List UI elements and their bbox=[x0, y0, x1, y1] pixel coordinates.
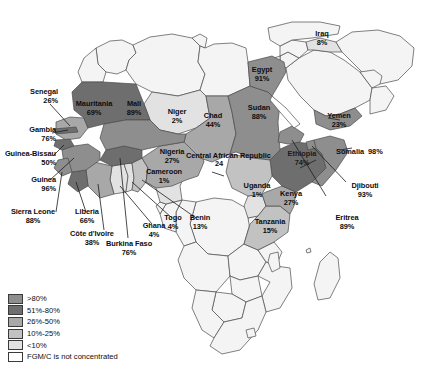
label-uganda-country: Uganda bbox=[244, 181, 271, 190]
label-eritrea: Eritrea 89% bbox=[328, 214, 366, 231]
label-yemen-country: Yemen bbox=[327, 111, 351, 120]
label-somalia-value: 98% bbox=[368, 147, 383, 156]
label-burkina-faso: Burkina Faso 76% bbox=[96, 240, 162, 257]
label-senegal: Senegal 26% bbox=[2, 88, 58, 105]
label-djibouti-country: Djibouti bbox=[351, 181, 378, 190]
label-cameroon: Cameroon 1% bbox=[140, 168, 188, 185]
label-djibouti: Djibouti 93% bbox=[344, 182, 386, 199]
label-burkina-faso-country: Burkina Faso bbox=[106, 239, 152, 248]
label-guinea: Guinea 96% bbox=[2, 176, 56, 193]
label-ghana-value: 4% bbox=[134, 231, 174, 240]
label-benin: Benin 13% bbox=[184, 214, 216, 231]
label-nigeria-country: Nigeria bbox=[160, 147, 185, 156]
label-mali: Mali 89% bbox=[118, 100, 150, 117]
legend-item-over-80: >80% bbox=[8, 293, 160, 305]
label-burkina-faso-value: 76% bbox=[96, 249, 162, 258]
label-ethiopia-country: Ethiopia bbox=[288, 149, 317, 158]
label-guinea-bissau: Guinea-Bissau 50% bbox=[0, 150, 56, 167]
label-mauritania-country: Mauritania bbox=[76, 99, 112, 108]
label-eritrea-value: 89% bbox=[328, 223, 366, 232]
legend-swatch-51-80 bbox=[8, 305, 23, 315]
label-cote-divoire-country: Côte d'Ivoire bbox=[70, 229, 114, 238]
label-sierra-leone-value: 88% bbox=[2, 217, 64, 226]
legend-label-under-10: <10% bbox=[27, 341, 47, 350]
country-lesotho bbox=[246, 328, 256, 338]
label-ethiopia: Ethiopia 74% bbox=[282, 150, 322, 167]
legend-swatch-10-25 bbox=[8, 329, 23, 339]
country-comoros bbox=[306, 248, 311, 253]
label-car: Central African Republic 24 bbox=[186, 152, 252, 168]
label-egypt-country: Egypt bbox=[252, 65, 272, 74]
label-benin-country: Benin bbox=[190, 213, 210, 222]
label-senegal-value: 26% bbox=[2, 97, 58, 106]
legend-swatch-not-concentrated bbox=[8, 352, 23, 362]
legend-item-10-25: 10%-25% bbox=[8, 328, 160, 340]
legend-label-not-concentrated: FGM/C is not concentrated bbox=[27, 352, 118, 361]
legend-label-26-50: 26%-50% bbox=[27, 317, 60, 326]
label-egypt-value: 91% bbox=[244, 75, 280, 84]
label-benin-value: 13% bbox=[184, 223, 216, 232]
label-iraq-value: 8% bbox=[308, 39, 336, 48]
label-guinea-value: 96% bbox=[2, 185, 56, 194]
label-liberia-value: 66% bbox=[64, 217, 110, 226]
label-togo-country: Togo bbox=[164, 213, 181, 222]
legend-item-26-50: 26%-50% bbox=[8, 316, 160, 328]
label-somalia: Somalia 98% bbox=[336, 148, 412, 157]
label-gambia-country: Gambia bbox=[29, 125, 56, 134]
legend-swatch-26-50 bbox=[8, 317, 23, 327]
label-guinea-bissau-value: 50% bbox=[0, 159, 56, 168]
label-tanzania: Tanzania 15% bbox=[246, 218, 294, 235]
label-car-country: Central African Republic bbox=[186, 151, 271, 160]
fgm-prevalence-map-figure: Senegal 26% Gambia 76% Guinea-Bissau 50%… bbox=[0, 0, 421, 373]
label-tanzania-value: 15% bbox=[246, 227, 294, 236]
label-mauritania: Mauritania 69% bbox=[68, 100, 120, 117]
label-chad-country: Chad bbox=[204, 111, 222, 120]
country-oman bbox=[370, 86, 394, 114]
label-sierra-leone: Sierra Leone 88% bbox=[2, 208, 64, 225]
label-iraq: Iraq 8% bbox=[308, 30, 336, 47]
label-chad: Chad 44% bbox=[196, 112, 230, 129]
leader-car bbox=[212, 172, 224, 176]
country-madagascar bbox=[314, 252, 340, 300]
label-mali-country: Mali bbox=[127, 99, 141, 108]
country-libya bbox=[198, 43, 250, 96]
label-car-value: 24 bbox=[186, 160, 252, 168]
label-sudan-country: Sudan bbox=[248, 103, 270, 112]
legend-swatch-under-10 bbox=[8, 340, 23, 350]
label-yemen-value: 23% bbox=[322, 121, 356, 130]
legend-label-51-80: 51%-80% bbox=[27, 306, 60, 315]
label-eritrea-country: Eritrea bbox=[335, 213, 358, 222]
legend-label-over-80: >80% bbox=[27, 294, 47, 303]
label-mauritania-value: 69% bbox=[68, 109, 120, 118]
label-guinea-country: Guinea bbox=[31, 175, 56, 184]
country-algeria bbox=[126, 34, 205, 96]
label-uganda-value: 1% bbox=[238, 191, 276, 200]
label-sudan-value: 88% bbox=[240, 113, 278, 122]
legend-item-51-80: 51%-80% bbox=[8, 305, 160, 317]
label-guinea-bissau-country: Guinea-Bissau bbox=[5, 149, 56, 158]
prevalence-legend: >80% 51%-80% 26%-50% 10%-25% <10% FGM/C … bbox=[8, 293, 160, 363]
label-tanzania-country: Tanzania bbox=[255, 217, 286, 226]
label-ethiopia-value: 74% bbox=[282, 159, 322, 168]
label-liberia: Liberia 66% bbox=[64, 208, 110, 225]
leader-sierra-leone bbox=[56, 172, 62, 212]
label-iraq-country: Iraq bbox=[315, 29, 328, 38]
label-niger-value: 2% bbox=[160, 117, 194, 126]
label-liberia-country: Liberia bbox=[75, 207, 99, 216]
country-eritrea bbox=[278, 126, 304, 144]
label-niger: Niger 2% bbox=[160, 108, 194, 125]
label-uganda: Uganda 1% bbox=[238, 182, 276, 199]
legend-label-10-25: 10%-25% bbox=[27, 329, 60, 338]
label-senegal-country: Senegal bbox=[30, 87, 58, 96]
label-gambia-value: 76% bbox=[2, 135, 56, 144]
label-sierra-leone-country: Sierra Leone bbox=[11, 207, 55, 216]
label-sudan: Sudan 88% bbox=[240, 104, 278, 121]
label-cameroon-value: 1% bbox=[140, 177, 188, 186]
label-kenya-country: Kenya bbox=[280, 189, 302, 198]
label-egypt: Egypt 91% bbox=[244, 66, 280, 83]
label-mali-value: 89% bbox=[118, 109, 150, 118]
legend-swatch-over-80 bbox=[8, 294, 23, 304]
legend-item-not-concentrated: FGM/C is not concentrated bbox=[8, 351, 160, 363]
label-kenya: Kenya 27% bbox=[274, 190, 308, 207]
label-niger-country: Niger bbox=[168, 107, 187, 116]
